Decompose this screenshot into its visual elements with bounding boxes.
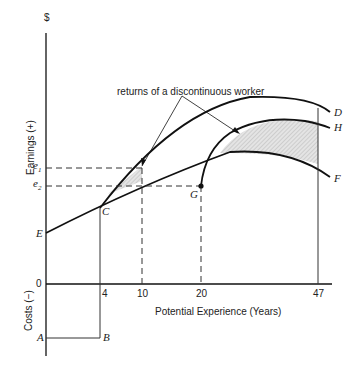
x-tick-47: 47 bbox=[313, 289, 324, 299]
point-G bbox=[198, 183, 203, 188]
shaded-region-late bbox=[220, 120, 318, 164]
annotation-label: returns of a discontinuous worker bbox=[117, 87, 264, 97]
point-label-F: F bbox=[334, 173, 341, 184]
origin-label: 0 bbox=[36, 279, 42, 289]
point-label-E: E bbox=[36, 228, 43, 239]
point-label-H: H bbox=[334, 122, 342, 133]
point-label-C: C bbox=[102, 206, 109, 217]
e2-label: e2 bbox=[33, 178, 41, 192]
point-label-A: A bbox=[37, 332, 44, 343]
x-axis-title: Potential Experience (Years) bbox=[155, 307, 281, 317]
costs-axis-label: Costs (−) bbox=[24, 290, 34, 331]
e1-label: e1 bbox=[33, 160, 41, 174]
point-label-B: B bbox=[103, 332, 110, 343]
dollar-label: $ bbox=[44, 13, 50, 23]
arrowhead-1 bbox=[141, 158, 146, 166]
point-label-D: D bbox=[334, 107, 342, 118]
point-label-G: G bbox=[190, 189, 198, 200]
curve-F bbox=[46, 152, 330, 233]
x-tick-10: 10 bbox=[137, 289, 148, 299]
x-tick-20: 20 bbox=[196, 289, 207, 299]
x-tick-4: 4 bbox=[102, 289, 108, 299]
